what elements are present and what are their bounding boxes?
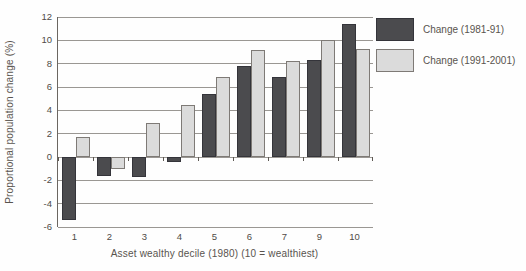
x-axis-tick [198,157,199,161]
x-axis-tick [303,157,304,161]
plot-area [57,17,373,227]
x-category-label-4: 4 [162,231,197,242]
x-category-label-6: 6 [232,231,267,242]
bar-dark-decile-2 [97,157,111,176]
gridline-y12 [58,17,373,18]
bar-dark-decile-6 [237,66,251,157]
x-axis-tick [338,157,339,161]
y-tick-label: -4 [28,199,52,209]
x-axis-title: Asset wealthy decile (1980) (10 = wealth… [57,248,372,259]
bar-dark-decile-10 [342,24,356,157]
gridline-y-6 [58,227,373,228]
x-category-label-7: 7 [267,231,302,242]
bar-light-decile-2 [111,157,125,169]
y-tick-label: 8 [28,59,52,69]
x-category-label-9: 9 [302,231,337,242]
y-tick-label: 4 [28,105,52,115]
bar-light-decile-1 [76,137,90,157]
legend-swatch-icon [376,18,414,41]
bar-light-decile-7 [286,61,300,157]
legend-label: Change (1981-91) [423,24,504,35]
x-axis-tick [58,157,59,161]
x-category-label-1: 1 [57,231,92,242]
y-tick-label: 6 [28,82,52,92]
legend-item-0: Change (1981-91) [376,18,504,41]
x-category-label-2: 2 [92,231,127,242]
bar-light-decile-9 [321,40,335,157]
y-tick-label: 2 [28,129,52,139]
legend-swatch-icon [376,49,414,72]
bar-light-decile-5 [216,77,230,158]
bar-dark-decile-9 [307,60,321,157]
x-category-label-3: 3 [127,231,162,242]
legend-item-1: Change (1991-2001) [376,49,515,72]
y-tick-label: -2 [28,175,52,185]
x-axis-tick [163,157,164,161]
bar-dark-decile-7 [272,77,286,158]
bar-dark-decile-3 [132,157,146,177]
x-axis-tick [233,157,234,161]
bar-light-decile-6 [251,50,265,157]
bar-light-decile-10 [356,49,370,158]
bar-dark-decile-1 [62,157,76,220]
y-tick-label: 0 [28,152,52,162]
bar-dark-decile-4 [167,157,181,162]
y-tick-label: -6 [28,222,52,232]
x-axis-tick [268,157,269,161]
bar-light-decile-4 [181,105,195,158]
x-axis-tick [372,157,373,161]
bar-dark-decile-5 [202,94,216,157]
x-axis-tick [93,157,94,161]
x-category-label-5: 5 [197,231,232,242]
y-axis-title: Proportional population change (%) [4,40,15,204]
gridline-y-4 [58,203,373,204]
x-category-label-10: 10 [337,231,372,242]
gridline-y-2 [58,180,373,181]
y-tick-label: 12 [28,12,52,22]
figure-canvas: Proportional population change (%) 12108… [0,0,526,271]
bar-light-decile-3 [146,123,160,157]
legend-label: Change (1991-2001) [423,55,515,66]
y-tick-label: 10 [28,35,52,45]
x-axis-tick [128,157,129,161]
